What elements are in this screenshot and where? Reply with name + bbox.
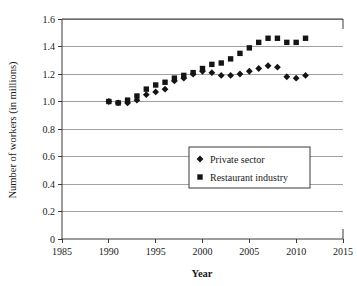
data-point-square <box>219 60 224 65</box>
data-point-diamond <box>255 65 262 72</box>
data-point-diamond <box>274 64 281 71</box>
data-point-square <box>228 56 233 61</box>
x-tick-label: 2005 <box>239 246 259 257</box>
legend-marker-square <box>197 174 202 179</box>
data-point-square <box>144 86 149 91</box>
data-point-diamond <box>227 72 234 79</box>
legend-label: Private sector <box>210 154 265 165</box>
y-tick-label: 0 <box>50 234 55 245</box>
data-point-square <box>284 40 289 45</box>
data-point-square <box>303 36 308 41</box>
data-point-square <box>265 36 270 41</box>
chart-figure: 00.20.40.60.81.01.21.41.6 19851990199520… <box>0 0 357 286</box>
x-tick-label: 1995 <box>146 246 166 257</box>
y-tick-label: 0.6 <box>43 151 56 162</box>
y-tick-label: 1.4 <box>43 41 56 52</box>
y-tick-label: 0.8 <box>43 124 56 135</box>
x-tick-label: 1985 <box>52 246 72 257</box>
y-tick-label: 0.4 <box>43 179 56 190</box>
y-tick-label: 0.2 <box>43 206 56 217</box>
series-restaurant-industry <box>106 36 308 106</box>
data-point-square <box>162 80 167 85</box>
data-point-diamond <box>143 91 150 98</box>
data-point-diamond <box>265 62 272 69</box>
y-tick-label: 1.0 <box>43 96 56 107</box>
data-point-square <box>293 40 298 45</box>
data-point-diamond <box>162 86 169 93</box>
legend: Private sectorRestaurant industry <box>189 147 310 188</box>
data-point-diamond <box>152 88 159 95</box>
y-tick-label: 1.2 <box>43 69 56 80</box>
y-axis-ticks: 00.20.40.60.81.01.21.41.6 <box>43 14 63 245</box>
data-point-diamond <box>302 72 309 79</box>
x-tick-label: 2015 <box>333 246 353 257</box>
x-tick-label: 2000 <box>193 246 213 257</box>
data-point-diamond <box>208 69 215 76</box>
data-point-square <box>247 45 252 50</box>
x-tick-label: 2010 <box>286 246 306 257</box>
series-private-sector <box>105 62 308 106</box>
data-point-square <box>256 40 261 45</box>
x-axis-ticks: 1985199019952000200520102015 <box>52 239 353 257</box>
legend-label: Restaurant industry <box>210 172 288 183</box>
data-point-square <box>275 36 280 41</box>
x-tick-label: 1990 <box>99 246 119 257</box>
data-point-square <box>237 51 242 56</box>
data-point-diamond <box>237 71 244 78</box>
scatter-plot: 00.20.40.60.81.01.21.41.6 19851990199520… <box>0 0 357 286</box>
x-axis-title: Year <box>192 268 213 279</box>
data-point-square <box>153 82 158 87</box>
data-point-diamond <box>293 75 300 82</box>
y-tick-label: 1.6 <box>43 14 56 25</box>
data-point-diamond <box>218 72 225 79</box>
y-axis-title: Number of workers (in millions) <box>7 61 19 199</box>
data-point-square <box>209 62 214 67</box>
